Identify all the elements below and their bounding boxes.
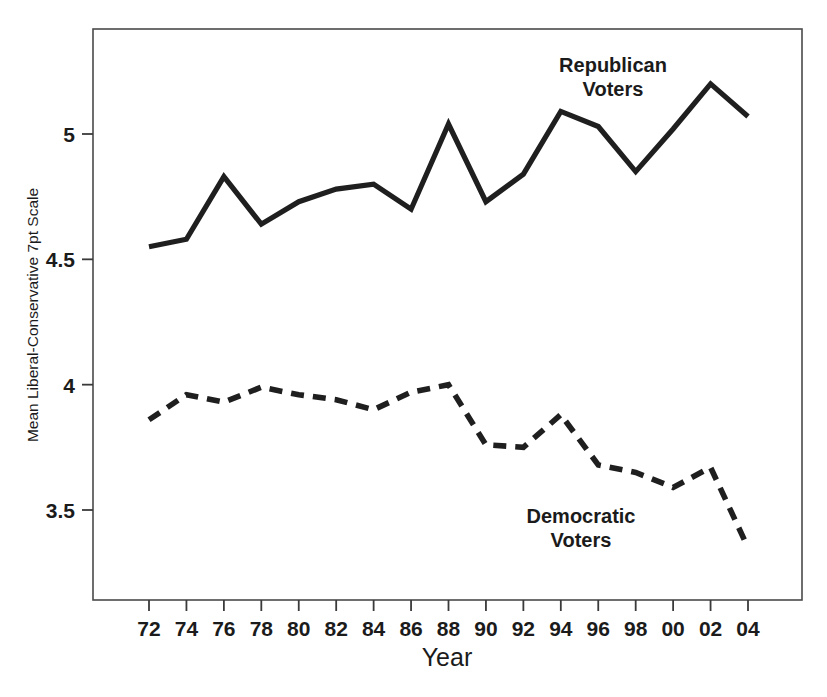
chart-figure: 54.543.5 7274767880828486889092949698000… (0, 0, 827, 697)
series-label-democratic-line1: Democratic (527, 505, 636, 527)
x-tick-label-84: 84 (362, 617, 386, 640)
x-axis-title: Year (422, 643, 473, 671)
x-tick-label-98: 98 (624, 617, 648, 640)
x-tick-label-82: 82 (325, 617, 348, 640)
x-tick-label-96: 96 (587, 617, 610, 640)
y-tick-label-4.5: 4.5 (46, 248, 76, 271)
series-line-republican-voters (149, 84, 748, 247)
y-axis-tick-labels: 54.543.5 (46, 123, 76, 522)
x-tick-label-00: 00 (661, 617, 684, 640)
x-tick-label-86: 86 (399, 617, 422, 640)
plot-frame (93, 29, 802, 600)
x-tick-label-74: 74 (175, 617, 199, 640)
x-tick-label-76: 76 (212, 617, 235, 640)
series-label-republican-line2: Voters (583, 78, 644, 100)
x-axis-ticks (149, 600, 748, 611)
y-axis-ticks (82, 134, 93, 510)
x-tick-label-04: 04 (736, 617, 760, 640)
x-tick-label-02: 02 (699, 617, 722, 640)
x-tick-label-78: 78 (250, 617, 274, 640)
x-tick-label-80: 80 (287, 617, 310, 640)
line-chart-svg: 54.543.5 7274767880828486889092949698000… (0, 0, 827, 697)
x-axis-tick-labels: 7274767880828486889092949698000204 (137, 617, 760, 640)
x-tick-label-94: 94 (549, 617, 573, 640)
y-tick-label-3.5: 3.5 (46, 499, 76, 522)
x-tick-label-72: 72 (137, 617, 160, 640)
y-axis-title: Mean Liberal-Conservative 7pt Scale (24, 188, 41, 442)
series-line-democratic-voters (149, 385, 748, 548)
y-tick-label-5: 5 (63, 123, 75, 146)
series-label-democratic-line2: Voters (551, 529, 612, 551)
y-tick-label-4: 4 (63, 374, 75, 397)
x-tick-label-90: 90 (474, 617, 497, 640)
x-tick-label-92: 92 (512, 617, 535, 640)
x-tick-label-88: 88 (437, 617, 461, 640)
series-label-republican-line1: Republican (559, 54, 667, 76)
